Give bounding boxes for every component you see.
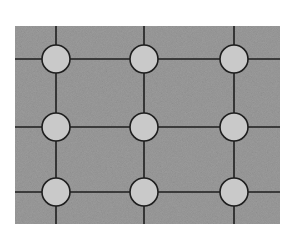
grid-diagram bbox=[0, 0, 301, 240]
grid-node bbox=[42, 178, 70, 206]
grid-node bbox=[220, 178, 248, 206]
grid-node bbox=[130, 45, 158, 73]
grid-node bbox=[42, 45, 70, 73]
grid-node bbox=[130, 113, 158, 141]
grid-node bbox=[220, 45, 248, 73]
grid-node bbox=[42, 113, 70, 141]
grid-node bbox=[130, 178, 158, 206]
grid-node bbox=[220, 113, 248, 141]
